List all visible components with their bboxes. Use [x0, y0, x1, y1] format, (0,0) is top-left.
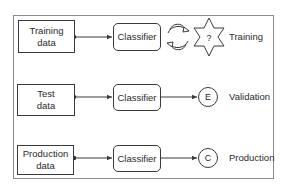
production-data-label-line2: data [23, 160, 68, 172]
outcome-symbol: C [205, 153, 212, 163]
stage-label-production: Production [229, 152, 274, 164]
outcome-circle-c: C [198, 148, 218, 168]
outcome-circle-e: E [198, 87, 218, 107]
test-data-label-line1: Test [37, 88, 56, 100]
production-data-box: Production data [17, 145, 74, 175]
training-data-label-line1: Training [30, 25, 64, 37]
classifier-box-production: Classifier [113, 145, 161, 172]
classifier-label: Classifier [117, 31, 156, 43]
training-data-box: Training data [18, 20, 75, 53]
test-data-box: Test data [17, 84, 75, 116]
cycle-arrows-icon [167, 24, 189, 50]
outcome-symbol: E [205, 92, 211, 102]
production-data-label-line1: Production [23, 148, 68, 160]
star-question-icon: ? [194, 18, 224, 56]
stage-label-training: Training [229, 31, 263, 43]
classifier-label: Classifier [117, 92, 156, 104]
test-data-label-line2: data [37, 100, 56, 112]
svg-text:?: ? [206, 33, 211, 43]
classifier-box-training: Classifier [113, 23, 161, 51]
stage-label-validation: Validation [229, 91, 270, 103]
classifier-label: Classifier [117, 153, 156, 165]
classifier-box-validation: Classifier [113, 84, 161, 111]
training-data-label-line2: data [30, 37, 64, 49]
training-connector [72, 35, 112, 39]
